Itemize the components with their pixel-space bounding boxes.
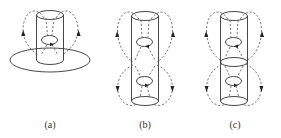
lower-current-ring (137, 77, 153, 86)
upper-inner-bottom-right (237, 47, 243, 58)
lower-loop-right (153, 65, 172, 106)
cylinder-bottom (132, 97, 159, 106)
panel-c-label: (c) (229, 119, 240, 130)
lower-loop-left (118, 65, 137, 106)
field-inner-bottom-left (41, 45, 47, 55)
panel-c (204, 12, 264, 106)
panel-a (10, 11, 90, 73)
cylinder-bottom (221, 97, 248, 106)
arrow-up-left-icon (21, 30, 25, 36)
upper-inner-bottom-left (135, 47, 141, 60)
field-inner-right (52, 18, 54, 35)
lower-inner-top-left (135, 66, 141, 77)
upper-current-ring (137, 38, 153, 47)
lower-inner-top-right (237, 66, 243, 77)
arrow-up-left-icon (204, 31, 208, 37)
upper-inner-left (230, 20, 231, 37)
arrow-up-left-icon (115, 31, 119, 37)
disk-plane (10, 48, 90, 72)
arrow-down-left-icon (205, 86, 209, 92)
upper-inner-right (148, 20, 149, 37)
arrow-down-left-icon (116, 86, 120, 92)
lower-current-ring (226, 77, 242, 86)
panel-b (115, 12, 175, 106)
cylinder-middle (221, 58, 248, 67)
cylinder-top (37, 11, 64, 20)
lower-loop-right (242, 64, 261, 106)
panel-b-label: (b) (139, 119, 151, 130)
upper-current-ring (226, 38, 242, 47)
current-ring (42, 36, 58, 45)
lower-loop-left (207, 64, 226, 106)
upper-inner-bottom-left (225, 47, 230, 58)
field-inner-bottom-right (52, 45, 58, 55)
arrow-down-right-icon (259, 86, 263, 92)
upper-inner-bottom-right (148, 47, 155, 60)
upper-inner-left (141, 20, 142, 37)
figure-diagram (0, 0, 281, 138)
cylinder-bottom (37, 60, 64, 65)
arrow-up-right-icon (77, 30, 81, 36)
lower-inner-top-left (225, 66, 230, 77)
panel-a-label: (a) (44, 119, 55, 130)
upper-inner-right (237, 20, 238, 37)
arrow-up-right-icon (260, 31, 264, 37)
arrow-up-right-icon (171, 31, 175, 37)
lower-inner-top-right (148, 66, 155, 77)
arrow-down-right-icon (170, 86, 174, 92)
cylinder-top (132, 12, 159, 21)
field-inner-left (46, 18, 48, 35)
cylinder-top (221, 12, 248, 21)
